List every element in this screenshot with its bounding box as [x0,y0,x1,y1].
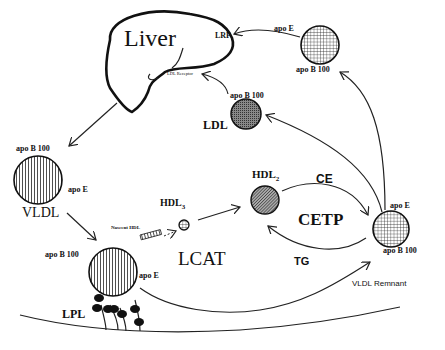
nascent-hdl: Nascent HDL [111,225,176,240]
ce-label: CE [316,172,333,186]
lpl-dot-icon [130,305,140,313]
apo-b100-label: apo B 100 [296,65,330,74]
particle-hatched-icon [251,186,279,214]
particle-striped-icon [89,248,137,296]
lrp-label: LRP [215,31,231,40]
apo-e-label: apo E [68,185,88,194]
lcat-label: LCAT [178,248,226,269]
arrow-nascent-to-hdl3 [164,231,176,236]
arrow-remnant-to-idl [340,72,385,210]
particle-striped-icon [14,156,62,204]
apo-b100-label: apo B 100 [45,250,79,259]
particle-grid-icon [301,26,339,64]
vldl-particle: apo B 100 apo E VLDL [14,144,88,220]
vldl-label: VLDL [22,205,59,220]
particle-grid-icon [373,211,409,247]
liver-label: Liver [124,25,176,51]
particle-small-icon [179,220,189,230]
arrow-hdl3-to-hdl2 [198,207,240,220]
apo-e-label: apo E [390,201,410,210]
liver-lobe-line [172,48,183,68]
lpl-tether [135,300,140,331]
lpl-dot-icon [94,294,104,302]
vldl-remnant-particle: apo E apo B 100 VLDL Remnant [352,201,417,288]
idl-particle-top: apo E apo B 100 [274,24,339,74]
apo-b100-label: apo B 100 [230,91,264,100]
lpl-dot-icon [134,318,144,326]
arrow-liver-to-vldl [69,103,117,146]
apo-b100-label: apo B 100 [383,246,417,255]
cetp-label: CETP [298,210,343,229]
lipoprotein-metabolism-diagram: Liver LRP LDL Receptor apo E apo B 100 a… [0,0,445,350]
liver: Liver LRP LDL Receptor [106,12,233,112]
tg-label: TG [294,255,309,267]
vldl-remnant-label: VLDL Remnant [352,279,407,288]
lpl-dot-icon [117,310,127,318]
nascent-hdl-label: Nascent HDL [111,225,141,230]
hdl3-particle: HDL3 [160,197,189,230]
arrow-remnant-to-ldl [266,115,382,212]
hdl3-label: HDL3 [160,197,186,211]
ldl-label: LDL [203,118,228,132]
arrow-tg-transfer [268,226,366,249]
ldl-receptor-label: LDL Receptor [167,71,193,76]
apo-e-label: apo E [139,271,159,280]
arrow-vldl-to-lpl [67,213,96,240]
hdl2-label: HDL2 [252,168,280,183]
arrow-ldl-to-receptor [202,74,228,94]
lpl-dot-icon [92,304,102,312]
liver-receptor-curve [148,74,158,80]
nascent-hdl-disc-icon [140,230,162,240]
particle-dense-icon [231,99,261,129]
arrow-vldl-to-remnant [140,262,370,312]
lpl-dot-icon [109,305,119,313]
lpl-label: LPL [62,307,85,321]
ldl-particle: apo B 100 LDL [203,91,264,132]
apo-b100-label: apo B 100 [16,144,50,153]
hdl2-particle: HDL2 [251,168,280,214]
